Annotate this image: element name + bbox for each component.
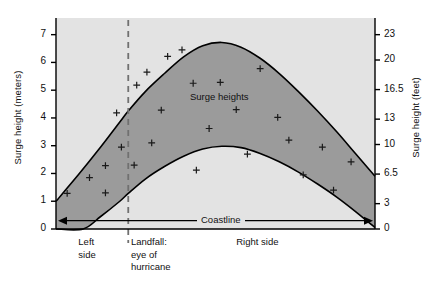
surge-heights-annotation: Surge heights bbox=[190, 91, 249, 102]
y-tick-label-left: 4 bbox=[20, 111, 46, 122]
y-tick-label-right: 20 bbox=[384, 53, 414, 64]
y-tick-label-right: 16.5 bbox=[384, 83, 414, 94]
y-tick-label-left: 1 bbox=[20, 194, 46, 205]
surge-height-chart: Surge height (meters) Surge height (feet… bbox=[0, 0, 432, 292]
y-tick-label-right: 6.5 bbox=[384, 167, 414, 178]
x-category-label-line: hurricane bbox=[131, 261, 171, 274]
x-category-label-line: eye of bbox=[131, 249, 171, 262]
y-tick-label-right: 0 bbox=[384, 222, 414, 233]
y-tick-label-left: 6 bbox=[20, 55, 46, 66]
y-tick-label-right: 3 bbox=[384, 197, 414, 208]
x-category-label-line: Right side bbox=[236, 236, 278, 249]
y-tick-label-right: 10 bbox=[384, 138, 414, 149]
x-category-label-landfall: Landfall:eye ofhurricane bbox=[131, 236, 171, 274]
y-tick-label-left: 5 bbox=[20, 83, 46, 94]
y-tick-label-left: 2 bbox=[20, 166, 46, 177]
x-category-label-line: Left bbox=[78, 236, 95, 249]
x-category-label-left-side: Leftside bbox=[78, 236, 95, 261]
y-tick-label-left: 7 bbox=[20, 28, 46, 39]
y-tick-label-left: 3 bbox=[20, 139, 46, 150]
coastline-annotation: Coastline bbox=[197, 214, 245, 225]
x-category-label-line: side bbox=[78, 249, 95, 262]
x-category-label-line: Landfall: bbox=[131, 236, 171, 249]
y-tick-label-left: 0 bbox=[20, 222, 46, 233]
plot-canvas bbox=[0, 0, 432, 292]
y-tick-label-right: 13 bbox=[384, 112, 414, 123]
y-tick-label-right: 23 bbox=[384, 28, 414, 39]
x-category-label-right-side: Right side bbox=[236, 236, 278, 249]
